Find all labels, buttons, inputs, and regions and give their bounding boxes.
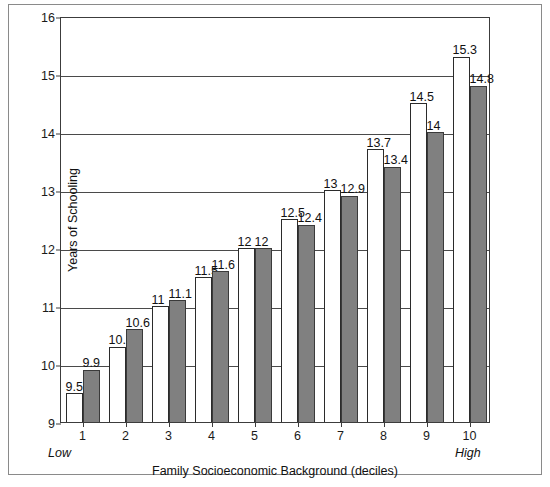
bar-group: 14.514 [405, 18, 448, 422]
bar-group: 1111.1 [147, 18, 190, 422]
bar-value-label: 12 [255, 236, 269, 249]
bar: 11 [152, 306, 169, 422]
bar-value-label: 10.6 [126, 317, 150, 330]
bar: 12 [255, 248, 272, 422]
bar: 12 [238, 248, 255, 422]
bar-group: 10.310.6 [104, 18, 147, 422]
bar: 12.9 [341, 196, 358, 422]
x-axis-high-annotation: High [455, 447, 481, 460]
y-tick-label: 10 [41, 360, 55, 373]
bar-value-label: 9.9 [83, 357, 100, 370]
y-tick-mark [56, 424, 61, 425]
x-tick-label: 8 [380, 430, 387, 443]
bar-value-label: 11 [152, 294, 165, 307]
x-tick-mark [212, 422, 213, 427]
bar: 10.3 [109, 347, 126, 422]
x-tick-mark [384, 422, 385, 427]
bar: 14.8 [470, 86, 487, 422]
y-axis-title: Years of Schooling [67, 140, 80, 300]
plot-area: 910111213141516 9.59.910.310.61111.111.5… [60, 17, 490, 423]
y-tick-label: 16 [41, 12, 55, 25]
bar: 15.3 [453, 57, 470, 422]
x-tick-mark [298, 422, 299, 427]
bar-value-label: 14 [427, 120, 441, 133]
bar-value-label: 14.8 [470, 73, 494, 86]
bar-value-label: 13.7 [367, 137, 391, 150]
bar: 9.5 [66, 393, 83, 422]
y-tick-label: 14 [41, 128, 55, 141]
x-tick-mark [255, 422, 256, 427]
x-tick-label: 1 [79, 430, 86, 443]
x-tick-label: 7 [337, 430, 344, 443]
x-tick-label: 4 [208, 430, 215, 443]
bar-value-label: 9.5 [66, 381, 83, 394]
x-tick-label: 3 [165, 430, 172, 443]
y-tick-label: 13 [41, 186, 55, 199]
bar: 13 [324, 190, 341, 422]
bar-group: 1212 [233, 18, 276, 422]
bar-value-label: 12.4 [298, 212, 322, 225]
bar-value-label: 15.3 [453, 44, 477, 57]
x-tick-label: 5 [251, 430, 258, 443]
bar-value-label: 11.1 [169, 288, 192, 301]
bar-group: 15.314.8 [448, 18, 491, 422]
y-tick-label: 12 [41, 244, 55, 257]
x-axis-low-annotation: Low [48, 447, 71, 460]
bar: 14.5 [410, 103, 427, 422]
bar-value-label: 11.6 [212, 259, 235, 272]
x-tick-mark [169, 422, 170, 427]
x-tick-mark [427, 422, 428, 427]
bar-group: 1312.9 [319, 18, 362, 422]
bar: 9.9 [83, 370, 100, 422]
bar: 11.6 [212, 271, 229, 422]
bar-group: 12.512.4 [276, 18, 319, 422]
x-tick-label: 2 [122, 430, 129, 443]
x-tick-mark [341, 422, 342, 427]
bar-value-label: 13 [324, 178, 338, 191]
bar-value-label: 12 [238, 236, 252, 249]
x-tick-mark [83, 422, 84, 427]
bar-value-label: 12.9 [341, 183, 365, 196]
x-axis-title: Family Socioeconomic Background (deciles… [0, 465, 550, 478]
y-tick-label: 15 [41, 70, 55, 83]
x-tick-label: 9 [423, 430, 430, 443]
bar-group: 11.511.6 [190, 18, 233, 422]
x-tick-mark [126, 422, 127, 427]
bar: 13.7 [367, 149, 384, 422]
bar-value-label: 14.5 [410, 91, 434, 104]
bar: 14 [427, 132, 444, 422]
bar: 12.5 [281, 219, 298, 422]
bar-group: 13.713.4 [362, 18, 405, 422]
y-tick-label: 11 [42, 302, 55, 315]
chart-figure: 910111213141516 9.59.910.310.61111.111.5… [0, 0, 550, 487]
x-tick-label: 10 [463, 430, 477, 443]
bar-value-label: 13.4 [384, 154, 408, 167]
bar: 11.1 [169, 300, 186, 422]
bar: 13.4 [384, 167, 401, 422]
y-tick-label: 9 [48, 418, 55, 431]
x-tick-mark [470, 422, 471, 427]
x-tick-label: 6 [294, 430, 301, 443]
bar: 12.4 [298, 225, 315, 422]
bar: 11.5 [195, 277, 212, 422]
bar: 10.6 [126, 329, 143, 422]
